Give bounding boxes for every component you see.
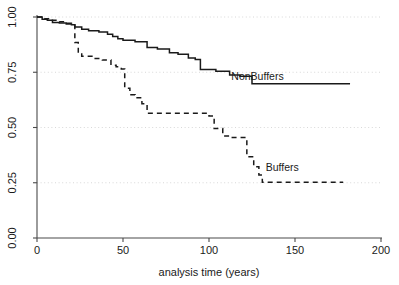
series-curve-buffers [37, 17, 343, 182]
survival-chart: 0.000.250.500.751.00 050100150200 NonBuf… [0, 0, 399, 285]
y-axis-ticks [33, 17, 37, 238]
x-axis-tick-labels: 050100150200 [34, 244, 390, 256]
y-axis-tick-labels: 0.000.250.500.751.00 [6, 6, 18, 248]
x-tick-label: 100 [200, 244, 218, 256]
series-label-buffers: Buffers [266, 161, 299, 173]
x-axis-title: analysis time (years) [159, 266, 260, 278]
y-tick-label: 0.75 [6, 62, 18, 83]
x-tick-label: 150 [286, 244, 304, 256]
y-tick-label: 0.50 [6, 117, 18, 138]
y-tick-label: 0.00 [6, 227, 18, 248]
series-label-nonbuffers: NonBuffers [231, 70, 283, 82]
kaplan-meier-plot: 0.000.250.500.751.00 050100150200 NonBuf… [0, 0, 399, 285]
series-layer [37, 17, 350, 182]
gridlines [37, 17, 382, 183]
x-tick-label: 0 [34, 244, 40, 256]
y-tick-label: 1.00 [6, 6, 18, 27]
x-tick-label: 200 [372, 244, 390, 256]
x-tick-label: 50 [117, 244, 129, 256]
y-tick-label: 0.25 [6, 172, 18, 193]
series-curve-nonbuffers [37, 17, 350, 84]
x-axis-ticks [37, 238, 381, 242]
